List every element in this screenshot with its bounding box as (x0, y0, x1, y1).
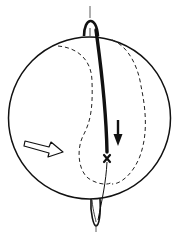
sphere-diagram (0, 0, 179, 233)
background (0, 0, 179, 233)
